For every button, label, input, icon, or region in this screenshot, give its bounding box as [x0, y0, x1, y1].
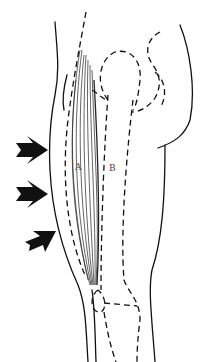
muscle-label: A [75, 162, 82, 172]
fascia-dashed-line [65, 12, 86, 275]
arrow-bottom-icon [25, 231, 56, 252]
leg-anatomy-diagram [0, 0, 206, 362]
knee-joint-line [104, 303, 137, 306]
thigh-outline-right [150, 25, 192, 362]
thigh-outline-left-inner [63, 75, 67, 110]
femur-right-edge [123, 100, 140, 362]
pelvis-inner [155, 72, 165, 108]
femur-left-edge [101, 95, 108, 290]
patella [92, 290, 105, 312]
femur-head [100, 51, 140, 110]
bone-label: B [109, 163, 116, 173]
arrow-top-icon [16, 136, 48, 164]
arrow-middle-icon [16, 180, 48, 208]
tibia-edge [104, 312, 116, 362]
